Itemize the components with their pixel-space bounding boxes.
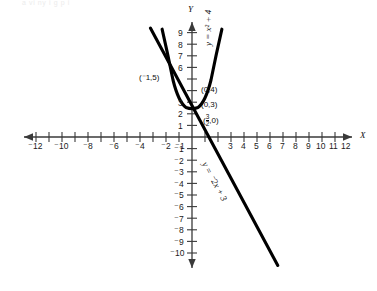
y-tick-6: 6	[178, 63, 183, 73]
x-tick-10: 10	[316, 141, 325, 151]
y-tick-1: 1	[178, 121, 183, 131]
y-tick-neg8: ⁻8	[174, 225, 184, 235]
y-tick-8: 8	[178, 40, 183, 50]
x-tick-neg4: ⁻4	[135, 141, 145, 151]
x-tick-neg6: ⁻6	[109, 141, 119, 151]
x-axis-label: X	[360, 130, 366, 140]
x-tick-3: 3	[228, 141, 233, 151]
x-tick-4: 4	[241, 141, 246, 151]
y-tick-neg3: ⁻3	[174, 167, 184, 177]
y-tick-neg2: ⁻2	[174, 156, 184, 166]
x-tick-6: 6	[267, 141, 272, 151]
x-tick-neg8: ⁻8	[83, 141, 93, 151]
paren-close: ,0)	[209, 116, 218, 125]
fraction-numerator: 3	[206, 114, 210, 121]
annotation-line-x-intercept: (32,0)	[203, 114, 219, 128]
y-tick-neg9: ⁻9	[174, 237, 184, 247]
x-tick-neg2: ⁻2	[161, 141, 171, 151]
annotation-line-y-intercept: (0,3)	[201, 100, 217, 109]
x-axis	[24, 133, 352, 141]
parabola-equation-label: y = x² + 4	[203, 10, 213, 46]
y-axis	[188, 22, 195, 268]
y-axis-label: Y	[188, 4, 193, 14]
graph-figure: a vi ny i g p i	[0, 0, 377, 291]
annotation-intersection: (⁻1,5)	[139, 73, 159, 82]
y-tick-7: 7	[178, 51, 183, 61]
x-tick-12: 12	[341, 141, 350, 151]
fraction-three-halves: 32	[206, 114, 210, 128]
y-tick-neg10: ⁻10	[170, 248, 184, 258]
y-tick-3: 3	[178, 98, 183, 108]
y-tick-9: 9	[178, 28, 183, 38]
y-tick-neg7: ⁻7	[174, 214, 184, 224]
x-tick-11: 11	[329, 141, 338, 151]
y-tick-2: 2	[178, 109, 183, 119]
annotation-parabola-y-intercept: (0,4)	[201, 85, 217, 94]
x-tick-8: 8	[293, 141, 298, 151]
x-tick-5: 5	[254, 141, 259, 151]
x-tick-neg10: ⁻10	[54, 141, 68, 151]
y-tick-neg4: ⁻4	[174, 179, 184, 189]
y-tick-neg1: ⁻1	[174, 144, 184, 154]
x-tick-7: 7	[280, 141, 285, 151]
x-tick-9: 9	[306, 141, 311, 151]
fraction-denominator: 2	[206, 120, 210, 128]
y-tick-neg6: ⁻6	[174, 202, 184, 212]
x-tick-neg12: ⁻12	[28, 141, 42, 151]
y-tick-neg5: ⁻5	[174, 190, 184, 200]
